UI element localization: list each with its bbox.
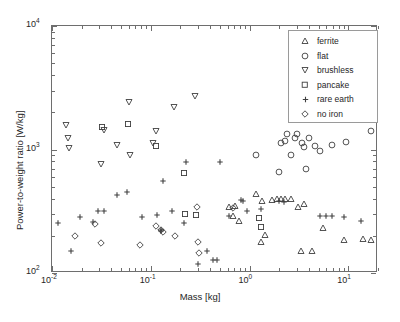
x-tick xyxy=(228,268,229,271)
y-tick xyxy=(52,177,55,178)
legend-marker-triangle-up-icon xyxy=(293,37,317,45)
data-point-pancake xyxy=(180,170,188,178)
data-point-flat xyxy=(287,151,295,159)
data-point-no-iron xyxy=(159,228,167,236)
data-point-no-iron xyxy=(229,204,237,212)
x-tick-top xyxy=(250,26,251,31)
data-point-brushless xyxy=(97,160,105,168)
y-tick xyxy=(52,214,55,215)
data-point-rare-earth xyxy=(54,219,61,226)
x-tick-top xyxy=(309,26,310,29)
data-point-ferrite xyxy=(340,236,348,244)
x-tick xyxy=(378,268,379,271)
data-point-flat xyxy=(302,165,310,173)
data-point-no-iron xyxy=(136,241,144,249)
x-tick-top xyxy=(319,26,320,29)
data-point-rare-earth xyxy=(239,197,246,204)
x-tick xyxy=(180,268,181,271)
legend-label: no iron xyxy=(317,109,343,119)
x-tick xyxy=(198,268,199,271)
legend-item-rare-earth[interactable]: rare earth xyxy=(289,92,377,107)
x-tick-top xyxy=(220,26,221,29)
data-point-no-iron xyxy=(71,232,79,240)
x-tick xyxy=(220,268,221,271)
x-tick xyxy=(129,268,130,271)
y-tick xyxy=(52,236,55,237)
legend-label: pancake xyxy=(317,80,349,90)
scatter-plot-figure: 10-210-1100101 104103102 Mass [kg] Power… xyxy=(0,0,400,322)
data-point-rare-earth xyxy=(358,218,365,225)
legend-marker-plus-icon xyxy=(293,96,317,103)
x-tick-top xyxy=(240,26,241,29)
y-tick xyxy=(52,199,55,200)
data-point-pancake xyxy=(193,211,201,219)
x-tick-label: 101 xyxy=(337,275,351,285)
y-tick xyxy=(52,45,55,46)
x-tick xyxy=(82,268,83,271)
x-tick-top xyxy=(111,26,112,29)
data-point-rare-earth xyxy=(244,207,251,214)
data-point-brushless xyxy=(125,98,133,106)
data-point-flat xyxy=(316,147,324,155)
x-tick xyxy=(309,268,310,271)
x-tick xyxy=(111,268,112,271)
x-tick-top xyxy=(339,26,340,29)
x-tick-top xyxy=(245,26,246,29)
data-point-ferrite xyxy=(252,190,260,198)
x-tick xyxy=(121,268,122,271)
x-tick-top xyxy=(378,26,379,29)
data-point-pancake xyxy=(181,210,189,218)
data-point-ferrite xyxy=(258,197,266,205)
y-tick xyxy=(52,112,55,113)
y-tick xyxy=(52,63,55,64)
legend-marker-diamond-icon xyxy=(293,110,317,118)
y-tick-right xyxy=(373,187,376,188)
data-point-no-iron xyxy=(91,220,99,228)
data-point-rare-earth xyxy=(257,205,264,212)
data-point-pancake xyxy=(257,223,265,231)
legend-item-brushless[interactable]: brushless xyxy=(289,63,377,78)
x-tick xyxy=(326,268,327,271)
data-point-rare-earth xyxy=(67,247,74,254)
x-tick xyxy=(250,266,251,271)
x-tick-top xyxy=(121,26,122,29)
x-tick xyxy=(348,266,349,271)
y-tick xyxy=(52,155,55,156)
x-tick-top xyxy=(210,26,211,29)
legend-marker-circle-icon xyxy=(293,52,317,60)
x-tick xyxy=(319,268,320,271)
y-tick xyxy=(52,169,55,170)
x-tick-top xyxy=(333,26,334,29)
x-tick-top xyxy=(151,26,152,31)
x-tick xyxy=(146,268,147,271)
data-point-rare-earth xyxy=(169,207,176,214)
y-tick xyxy=(52,32,55,33)
data-point-rare-earth xyxy=(281,198,288,205)
legend-item-pancake[interactable]: pancake xyxy=(289,78,377,93)
x-tick xyxy=(52,266,53,271)
legend-item-no-iron[interactable]: no iron xyxy=(289,107,377,122)
x-tick-top xyxy=(326,26,327,29)
data-point-pancake xyxy=(152,142,160,150)
x-tick-label: 10-2 xyxy=(41,275,57,285)
x-tick-top xyxy=(234,26,235,29)
y-tick xyxy=(52,26,57,27)
x-tick xyxy=(99,268,100,271)
legend-label: brushless xyxy=(317,65,353,75)
data-point-brushless xyxy=(152,127,160,135)
legend-marker-square-icon xyxy=(293,81,317,89)
x-tick-top xyxy=(141,26,142,29)
x-tick xyxy=(245,268,246,271)
data-point-rare-earth xyxy=(153,211,160,218)
data-point-flat xyxy=(252,151,260,159)
data-point-flat xyxy=(283,130,291,138)
x-tick-top xyxy=(297,26,298,29)
data-point-ferrite xyxy=(319,224,327,232)
legend-item-flat[interactable]: flat xyxy=(289,49,377,64)
x-tick xyxy=(141,268,142,271)
data-point-rare-earth xyxy=(138,213,145,220)
data-point-brushless xyxy=(126,151,134,159)
data-point-ferrite xyxy=(308,247,316,255)
x-tick-top xyxy=(135,26,136,29)
legend-item-ferrite[interactable]: ferrite xyxy=(289,34,377,49)
